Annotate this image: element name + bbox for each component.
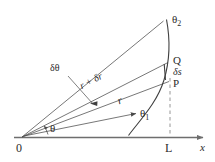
label-delta-s: δs: [173, 67, 182, 77]
label-limit-l: L: [165, 142, 172, 154]
label-axis-x: x: [200, 142, 205, 153]
label-theta2: θ2: [172, 14, 181, 28]
angle-arc-theta-tick: [44, 126, 48, 130]
ray-theta1: [24, 114, 136, 137]
label-theta1: θ1: [140, 108, 149, 122]
label-point-q: Q: [173, 55, 181, 66]
diagram-canvas: [0, 0, 215, 162]
label-theta: θ: [50, 123, 55, 134]
label-point-p: P: [173, 78, 179, 89]
polar-arc-length-diagram: θ2 Q δs P δθ r + δr r θ1 θ 0 L x: [0, 0, 215, 162]
label-theta1-subscript: 1: [145, 113, 149, 122]
label-origin: 0: [16, 142, 22, 154]
label-delta-theta: δθ: [50, 63, 60, 73]
label-theta2-subscript: 2: [177, 19, 181, 28]
